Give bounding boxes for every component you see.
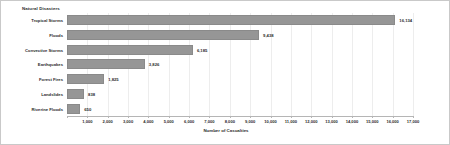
bar-track: [67, 72, 413, 87]
category-label-holder: Convective Storms: [5, 42, 63, 57]
chart-figure: Natural Disasters Tropical Storms16,134F…: [0, 0, 450, 145]
bar[interactable]: [67, 30, 259, 40]
bar[interactable]: [67, 45, 193, 55]
x-tick-label: 13,000: [325, 119, 338, 124]
bar-value-label: 650: [84, 106, 91, 111]
category-label: Landslides: [41, 91, 63, 96]
x-tick-mark: [352, 116, 353, 118]
x-tick-label: 3,000: [123, 119, 133, 124]
x-tick-mark: [169, 116, 170, 118]
x-tick-mark: [230, 116, 231, 118]
category-label: Riverine Floods: [32, 106, 63, 111]
x-tick-mark: [311, 116, 312, 118]
bar-value-label: 9,438: [263, 33, 273, 38]
x-tick-label: 15,000: [366, 119, 379, 124]
x-tick-label: 14,000: [346, 119, 359, 124]
category-label-holder: Floods: [5, 28, 63, 43]
x-tick-label: 1,000: [82, 119, 92, 124]
bar[interactable]: [67, 59, 145, 69]
x-tick-label: 10,000: [264, 119, 277, 124]
bar[interactable]: [67, 74, 104, 84]
x-tick-mark: [372, 116, 373, 118]
bar-value-label: 3,826: [149, 62, 159, 67]
category-label-holder: Tropical Storms: [5, 13, 63, 28]
bar[interactable]: [67, 15, 395, 25]
bar-row: Convective Storms6,185: [67, 42, 413, 57]
x-tick-mark: [271, 116, 272, 118]
bar-row: Tropical Storms16,134: [67, 13, 413, 28]
x-tick-mark: [250, 116, 251, 118]
category-label-holder: Forest Fires: [5, 72, 63, 87]
bar-track: [67, 87, 413, 102]
category-label-holder: Landslides: [5, 87, 63, 102]
plot-area: Tropical Storms16,134Floods9,438Convecti…: [67, 13, 413, 116]
x-tick-label: 8,000: [225, 119, 235, 124]
bar-track: [67, 13, 413, 28]
category-label: Convective Storms: [25, 47, 63, 52]
bar[interactable]: [67, 89, 84, 99]
category-label-holder: Riverine Floods: [5, 101, 63, 116]
bar-row: Riverine Floods650: [67, 101, 413, 116]
x-tick-mark: [291, 116, 292, 118]
gridline: [413, 13, 414, 116]
x-tick-label: 7,000: [204, 119, 214, 124]
x-tick-mark: [393, 116, 394, 118]
x-tick-mark: [128, 116, 129, 118]
category-label-holder: Earthquakes: [5, 57, 63, 72]
bar-row: Floods9,438: [67, 28, 413, 43]
x-tick-label: 11,000: [285, 119, 297, 124]
category-label: Floods: [49, 33, 63, 38]
x-tick-mark: [189, 116, 190, 118]
chart-title: Natural Disasters: [22, 6, 60, 11]
bar-track: [67, 28, 413, 43]
category-label: Forest Fires: [39, 77, 63, 82]
bar-value-label: 16,134: [399, 18, 412, 23]
x-tick-mark: [67, 116, 68, 118]
bar-row: Forest Fires1,825: [67, 72, 413, 87]
x-tick-label: 5,000: [164, 119, 174, 124]
x-tick-mark: [413, 116, 414, 118]
bar[interactable]: [67, 104, 80, 114]
x-tick-mark: [209, 116, 210, 118]
x-tick-label: 17,000: [407, 119, 420, 124]
bar-track: [67, 42, 413, 57]
bar-track: [67, 57, 413, 72]
x-axis-title: Number of Casualties: [1, 128, 450, 133]
bar-track: [67, 101, 413, 116]
bar-value-label: 838: [88, 91, 95, 96]
x-tick-mark: [332, 116, 333, 118]
x-tick-mark: [108, 116, 109, 118]
x-tick-label: 16,000: [386, 119, 399, 124]
x-axis-line: [67, 116, 413, 117]
category-label: Earthquakes: [38, 62, 63, 67]
x-tick-label: 12,000: [305, 119, 318, 124]
category-label: Tropical Storms: [31, 18, 63, 23]
x-tick-mark: [87, 116, 88, 118]
bar-row: Landslides838: [67, 87, 413, 102]
x-tick-label: 9,000: [245, 119, 255, 124]
bar-value-label: 6,185: [197, 47, 207, 52]
x-tick-label: 4,000: [143, 119, 153, 124]
x-tick-label: 6,000: [184, 119, 194, 124]
bar-value-label: 1,825: [108, 77, 118, 82]
x-tick-mark: [148, 116, 149, 118]
bar-row: Earthquakes3,826: [67, 57, 413, 72]
x-tick-label: 2,000: [103, 119, 113, 124]
